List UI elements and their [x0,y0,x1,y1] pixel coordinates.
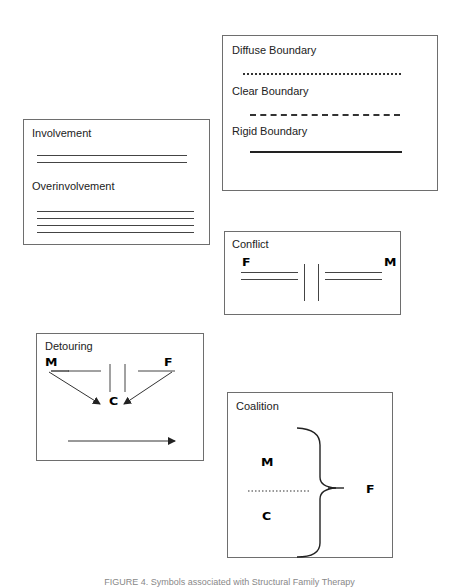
overinvolvement-label: Overinvolvement [32,180,115,192]
conflict-right-line-2 [325,279,382,280]
overinvolvement-line-1 [37,211,194,212]
conflict-left-line-2 [241,279,298,280]
detouring-arrow-mother-to-child [49,372,100,404]
involvement-line-1 [37,155,187,156]
detouring-arrows [37,334,205,462]
involvement-label: Involvement [32,127,91,139]
clear-boundary-label: Clear Boundary [232,85,308,97]
conflict-barrier-1 [304,264,305,301]
detouring-panel: Detouring M F C [36,333,204,461]
coalition-brace [228,393,394,559]
clear-boundary-line [250,114,400,116]
involvement-panel: Involvement Overinvolvement [23,119,210,245]
boundary-panel: Diffuse Boundary Clear Boundary Rigid Bo… [222,35,438,191]
coalition-panel: Coalition M C F [227,392,393,558]
conflict-right-line-1 [325,272,382,273]
overinvolvement-line-3 [37,225,194,226]
conflict-node-mother: M [384,257,396,268]
diffuse-boundary-line [243,73,401,75]
detouring-arrow-father-to-child [124,372,172,404]
conflict-title: Conflict [232,238,269,250]
diffuse-boundary-label: Diffuse Boundary [232,44,316,56]
rigid-boundary-line [250,151,402,153]
conflict-left-line-1 [241,272,298,273]
conflict-node-father: F [242,257,250,268]
overinvolvement-line-4 [37,232,194,233]
involvement-line-2 [37,162,187,163]
conflict-barrier-2 [318,264,319,301]
rigid-boundary-label: Rigid Boundary [232,125,307,137]
figure-caption: FIGURE 4. Symbols associated with Struct… [0,577,459,587]
conflict-panel: Conflict F M [224,231,401,315]
overinvolvement-line-2 [37,218,194,219]
